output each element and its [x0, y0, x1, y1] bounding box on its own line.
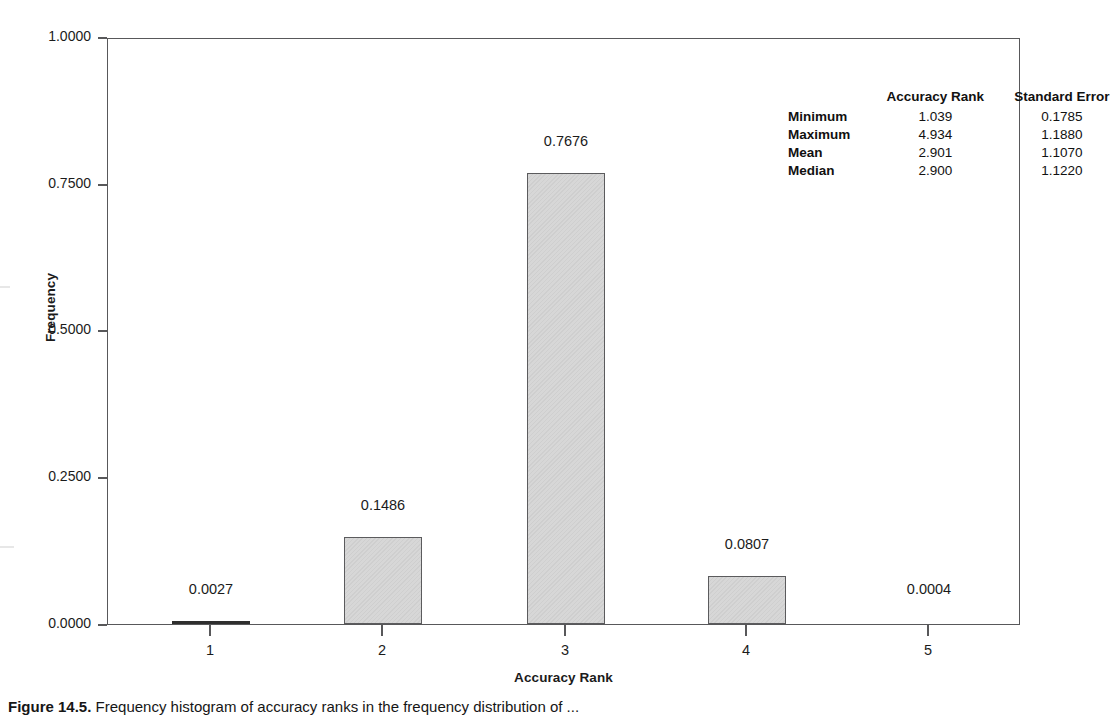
figure-caption-text: Frequency histogram of accuracy ranks in…	[96, 698, 580, 715]
table-corner-cell	[788, 87, 876, 108]
y-tick-label: 0.0000	[48, 615, 91, 631]
cell-mean-standard-error: 1.1070	[994, 144, 1114, 162]
bar-group-1: 0.0027	[172, 39, 250, 624]
x-axis-title: Accuracy Rank	[107, 670, 1020, 685]
bar-group-4: 0.0807	[708, 39, 786, 624]
bar-group-3: 0.7676	[527, 39, 605, 624]
table-row: Maximum 4.934 1.1880	[788, 126, 1114, 144]
bar-3	[527, 173, 605, 624]
bar-group-2: 0.1486	[344, 39, 422, 624]
table-row: Minimum 1.039 0.1785	[788, 108, 1114, 126]
statistics-summary-table: Accuracy Rank Standard Error Minimum 1.0…	[788, 87, 1114, 180]
x-tick-label: 4	[706, 642, 786, 658]
bar-value-label: 0.1486	[299, 497, 467, 513]
y-axis-title: Frequency	[43, 248, 58, 368]
x-tick-label: 3	[525, 642, 605, 658]
x-tick-mark	[209, 625, 211, 636]
scan-artifact	[0, 286, 10, 288]
x-tick-label: 1	[170, 642, 250, 658]
x-tick-mark	[381, 625, 383, 636]
bar-value-label: 0.0004	[845, 581, 1013, 597]
x-tick-label: 2	[342, 642, 422, 658]
x-tick-mark	[745, 625, 747, 636]
cell-maximum-accuracy-rank: 4.934	[876, 126, 994, 144]
x-tick-mark	[927, 625, 929, 636]
cell-minimum-accuracy-rank: 1.039	[876, 108, 994, 126]
cell-minimum-standard-error: 0.1785	[994, 108, 1114, 126]
y-tick-mark	[98, 184, 107, 186]
bar-value-label: 0.0807	[663, 536, 831, 552]
cell-median-accuracy-rank: 2.900	[876, 162, 994, 180]
column-header-standard-error: Standard Error	[994, 87, 1114, 108]
table-header-row: Accuracy Rank Standard Error	[788, 87, 1114, 108]
scan-artifact	[0, 546, 14, 548]
cell-maximum-standard-error: 1.1880	[994, 126, 1114, 144]
bar-4	[708, 576, 786, 624]
table-row: Median 2.900 1.1220	[788, 162, 1114, 180]
bar-value-label: 0.0027	[127, 581, 295, 597]
y-tick-mark	[98, 330, 107, 332]
bar-value-label: 0.7676	[482, 133, 650, 149]
row-label-minimum: Minimum	[788, 108, 876, 126]
y-tick-mark	[98, 37, 107, 39]
x-tick-label: 5	[888, 642, 968, 658]
x-tick-mark	[564, 625, 566, 636]
cell-median-standard-error: 1.1220	[994, 162, 1114, 180]
y-tick-label: 0.7500	[48, 175, 91, 191]
column-header-accuracy-rank: Accuracy Rank	[876, 87, 994, 108]
bar-1	[172, 621, 250, 624]
table-row: Mean 2.901 1.1070	[788, 144, 1114, 162]
y-tick-mark	[98, 477, 107, 479]
bar-2	[344, 537, 422, 624]
row-label-median: Median	[788, 162, 876, 180]
cell-mean-accuracy-rank: 2.901	[876, 144, 994, 162]
figure-caption: Figure 14.5. Frequency histogram of accu…	[8, 697, 1048, 716]
y-tick-label: 0.5000	[48, 321, 91, 337]
plot-area: 0.0027 0.1486 0.7676 0.0807 0.0004 Accur…	[107, 38, 1020, 625]
row-label-maximum: Maximum	[788, 126, 876, 144]
row-label-mean: Mean	[788, 144, 876, 162]
y-tick-label: 1.0000	[48, 28, 91, 44]
figure-caption-label: Figure 14.5.	[8, 698, 91, 715]
y-tick-label: 0.2500	[48, 468, 91, 484]
y-tick-mark	[98, 624, 107, 626]
